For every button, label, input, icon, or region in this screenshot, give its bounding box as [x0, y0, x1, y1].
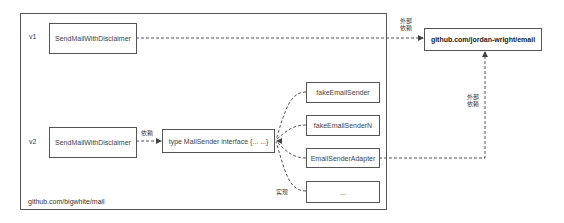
node-external-email: github.com/jordan-wright/email: [424, 28, 542, 51]
edge-label-depends: 依赖: [141, 130, 153, 137]
edge-label-implements: 实现: [276, 189, 288, 196]
node-impl-more: ...: [306, 181, 380, 203]
node-v1-sender: SendMailWithDisclaimer: [49, 23, 137, 54]
node-impl-fake-email-sender-n: fakeEmailSenderN: [306, 115, 380, 136]
node-interface: type MailSender interface {... ...}: [162, 129, 275, 153]
edge-impl4-to-interface: [276, 142, 306, 191]
edge-label-external-dep-top: 外部 依赖: [400, 18, 412, 32]
edge-impl1-to-interface: [276, 92, 306, 140]
interface-arrowhead: [276, 138, 282, 144]
node-v2-sender: SendMailWithDisclaimer: [49, 127, 137, 158]
edge-label-external-dep-side: 外部 依赖: [467, 94, 479, 108]
package-label: github.com/bigwhite/mail: [28, 198, 105, 205]
edge-impl2-to-interface: [276, 125, 306, 140]
version-label-v1: v1: [29, 33, 36, 40]
node-impl-email-sender-adapter: EmailSenderAdapter: [306, 148, 380, 168]
version-label-v2: v2: [29, 138, 36, 145]
node-impl-fake-email-sender: fakeEmailSender: [306, 82, 380, 103]
